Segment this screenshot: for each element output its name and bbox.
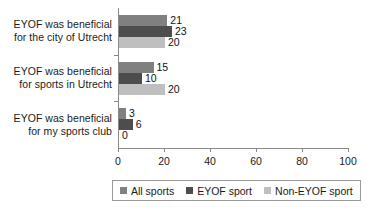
legend-swatch-icon [264,187,271,194]
category-label-line: for the city of Utrecht [0,31,112,44]
legend-item[interactable]: Non-EYOF sport [264,185,353,197]
bar [119,108,126,119]
bar-value-label: 10 [145,73,157,84]
bar [119,73,142,84]
y-axis-tick [114,55,118,56]
bar [119,84,165,95]
category-label: EYOF was beneficialfor sports in Utrecht [0,65,112,91]
legend-item[interactable]: All sports [120,185,174,197]
x-axis-tick [210,148,211,152]
x-axis-line [118,148,348,149]
category-label: EYOF was beneficialfor my sports club [0,112,112,138]
x-axis-tick-label: 40 [204,155,216,167]
x-axis-tick-label: 80 [296,155,308,167]
bar [119,62,154,73]
bar-value-label: 0 [122,130,128,141]
x-axis-tick [164,148,165,152]
legend-label: EYOF sport [197,185,252,197]
x-axis-tick [302,148,303,152]
bar [119,15,167,26]
plot-area: 212320151020360 020406080100 [118,8,348,148]
category-label-line: for my sports club [0,125,112,138]
category-axis-labels: EYOF was beneficialfor the city of Utrec… [0,8,114,148]
bar [119,37,165,48]
x-axis-tick-label: 60 [250,155,262,167]
legend-label: Non-EYOF sport [275,185,353,197]
legend-swatch-icon [120,187,127,194]
category-label-line: for sports in Utrecht [0,78,112,91]
bar-chart: EYOF was beneficialfor the city of Utrec… [0,0,366,209]
x-axis-tick [118,148,119,152]
bar [119,26,172,37]
legend-item[interactable]: EYOF sport [186,185,252,197]
category-label: EYOF was beneficialfor the city of Utrec… [0,18,112,44]
x-axis-tick [256,148,257,152]
category-label-line: EYOF was beneficial [14,18,112,30]
chart-legend: All sportsEYOF sportNon-EYOF sport [112,180,361,201]
legend-swatch-icon [186,187,193,194]
x-axis-tick [348,148,349,152]
y-axis-tick [114,101,118,102]
x-axis-tick-label: 20 [158,155,170,167]
bar-value-label: 20 [168,37,180,48]
bar-value-label: 15 [157,62,169,73]
category-label-line: EYOF was beneficial [14,65,112,77]
bar-value-label: 6 [136,119,142,130]
bar-value-label: 20 [168,84,180,95]
x-axis-tick-label: 0 [115,155,121,167]
x-axis-tick-label: 100 [339,155,357,167]
bar-value-label: 3 [129,108,135,119]
category-label-line: EYOF was beneficial [14,112,112,124]
legend-label: All sports [131,185,174,197]
